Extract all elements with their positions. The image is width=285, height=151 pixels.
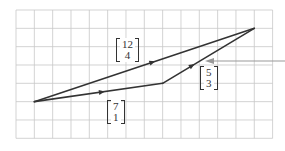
vector-label-first: 7 1 [107, 100, 125, 124]
pointer-arrowhead-icon [205, 58, 214, 64]
matrix-entries: 5 3 [204, 66, 214, 90]
vector-first [34, 83, 162, 101]
vector-grid-diagram [0, 0, 285, 151]
second-y: 3 [206, 78, 212, 89]
matrix-entries: 12 4 [120, 38, 135, 62]
right-bracket [121, 100, 125, 124]
resultant-y: 4 [125, 50, 131, 61]
right-bracket [135, 38, 139, 62]
vector-label-second: 5 3 [200, 66, 218, 90]
grid [16, 10, 273, 138]
matrix-entries: 7 1 [111, 100, 121, 124]
right-bracket [214, 66, 218, 90]
vector-label-resultant: 12 4 [116, 38, 139, 62]
first-y: 1 [113, 112, 119, 123]
